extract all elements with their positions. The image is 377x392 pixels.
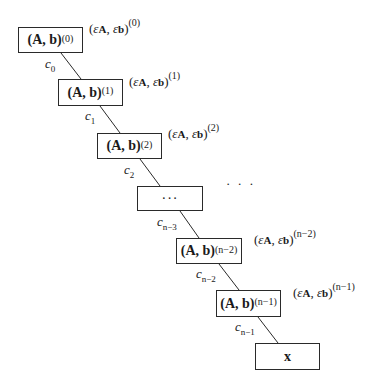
edge-label-c2: c2 bbox=[124, 162, 134, 180]
node-label: (A, b) bbox=[181, 243, 215, 259]
edge-line-5 bbox=[258, 317, 278, 343]
node-ab-0: (A, b)(0) bbox=[18, 27, 83, 53]
node-superscript: (0) bbox=[62, 33, 74, 44]
node-ab-n-2: (A, b)(n−2) bbox=[176, 238, 242, 264]
error-annotation-2: (εA, εb)(2) bbox=[168, 124, 219, 142]
node-superscript: (n−1) bbox=[254, 296, 276, 307]
error-annotation-1: (εA, εb)(1) bbox=[129, 72, 180, 90]
node-ab-2: (A, b)(2) bbox=[97, 133, 162, 159]
node-superscript: (2) bbox=[141, 139, 153, 150]
edge-label-c1: c1 bbox=[85, 108, 95, 126]
error-annotation-0: (εA, εb)(0) bbox=[89, 19, 140, 37]
node-ab-1: (A, b)(1) bbox=[58, 79, 123, 106]
edge-label-cn-1: cn−1 bbox=[235, 319, 255, 337]
edge-label-cn-2: cn−2 bbox=[196, 266, 216, 284]
edge-line-0 bbox=[61, 53, 81, 79]
edge-line-4 bbox=[219, 264, 239, 290]
node-label: x bbox=[284, 349, 291, 365]
node-superscript: (1) bbox=[102, 85, 114, 96]
node-label: (A, b) bbox=[28, 32, 62, 48]
node-ab-n-1: (A, b)(n−1) bbox=[216, 290, 281, 317]
error-annotation-n-1: (εA, εb)(n−1) bbox=[293, 283, 355, 301]
ellipsis-label: ··· bbox=[162, 191, 179, 207]
node-label: (A, b) bbox=[68, 85, 102, 101]
edge-line-2 bbox=[140, 159, 160, 186]
edge-line-3 bbox=[180, 211, 199, 238]
node-label: (A, b) bbox=[107, 138, 141, 154]
edge-label-c0: c0 bbox=[45, 56, 55, 74]
edge-line-1 bbox=[100, 106, 120, 133]
edge-label-cn-3: cn−3 bbox=[157, 214, 177, 232]
node-label: (A, b) bbox=[220, 296, 254, 312]
node-superscript: (n−2) bbox=[215, 244, 237, 255]
node-x: x bbox=[255, 343, 320, 370]
error-annotation-n-2: (εA, εb)(n−2) bbox=[254, 230, 316, 248]
free-ellipsis: · · · bbox=[226, 176, 256, 192]
node-ellipsis: ··· bbox=[137, 186, 203, 211]
